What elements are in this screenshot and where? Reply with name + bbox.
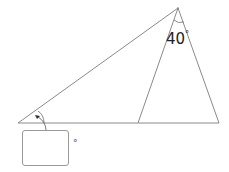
- side-right-apex: [178, 8, 219, 123]
- answer-input[interactable]: [22, 130, 69, 166]
- apex-point: [177, 7, 179, 9]
- arrowhead-icon: [35, 115, 40, 119]
- degree-sign: °: [185, 30, 189, 39]
- answer-degree-symbol: °: [73, 138, 78, 148]
- given-angle-label: 40°: [166, 32, 189, 47]
- given-angle-value: 40: [166, 30, 185, 48]
- side-left-apex: [18, 8, 178, 123]
- cevian-apex-mid: [138, 8, 178, 123]
